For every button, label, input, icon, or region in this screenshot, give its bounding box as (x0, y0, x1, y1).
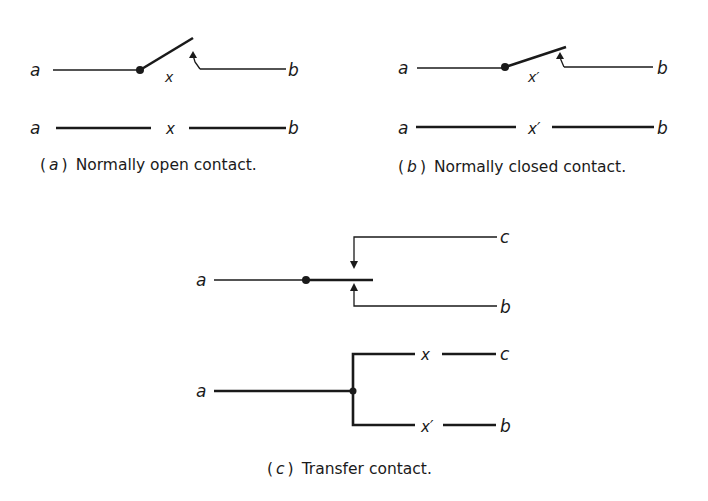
switch-lever-closed (505, 47, 566, 67)
panel-c-transfer: a c b a x c x′ b (c)Transfer conta (196, 227, 511, 478)
panel-c-caption: (c)Transfer contact. (267, 460, 432, 478)
panel-a-caption: (a)Normally open contact. (40, 156, 257, 174)
terminal-c-label: c (500, 344, 510, 364)
switch-lever-open (140, 38, 193, 70)
terminal-b-label: b (500, 297, 511, 317)
terminal-a-label: a (196, 270, 206, 290)
terminal-b-label: b (288, 60, 299, 80)
arrow-up-icon (350, 283, 358, 291)
panel-b-normally-closed: a x′ b a x′ b (b)Normally closed contact… (398, 47, 668, 176)
terminal-a-label: a (30, 60, 40, 80)
terminal-b-label: b (657, 58, 668, 78)
terminal-b-label: b (500, 416, 511, 436)
wire-b (354, 289, 497, 306)
wire-c (354, 237, 497, 262)
arrow-head-icon (556, 52, 564, 59)
contact-label-x-prime: x′ (420, 418, 434, 436)
arrow-down-icon (350, 261, 358, 269)
contact-label-x: x (420, 346, 430, 364)
contact-label-x: x (164, 69, 174, 85)
terminal-a-label: a (30, 118, 40, 138)
panel-b-simplified-notation: a x′ b (398, 118, 668, 138)
panel-b-relay-symbol: a x′ b (398, 47, 668, 85)
branch-wires (353, 354, 415, 425)
contact-label-x-prime: x′ (527, 120, 541, 138)
panel-c-simplified-notation: a x c x′ b (196, 344, 511, 436)
terminal-b-label: b (657, 118, 668, 138)
arrow-head-icon (189, 51, 197, 58)
panel-a-relay-symbol: a x b (30, 38, 299, 85)
terminal-a-label: a (196, 381, 206, 401)
terminal-a-label: a (398, 58, 408, 78)
terminal-b-label: b (288, 118, 299, 138)
panel-a-normally-open: a x b a x b (a)Normally open contact. (30, 38, 299, 174)
contact-diagram-figure: a x b a x b (a)Normally open contact. a (0, 0, 708, 501)
terminal-a-label: a (398, 118, 408, 138)
contact-label-x: x (165, 120, 175, 138)
panel-b-caption: (b)Normally closed contact. (398, 158, 626, 176)
panel-c-relay-symbol: a c b (196, 227, 511, 317)
contact-label-x-prime: x′ (527, 69, 540, 85)
terminal-c-label: c (500, 227, 510, 247)
panel-a-simplified-notation: a x b (30, 118, 299, 138)
